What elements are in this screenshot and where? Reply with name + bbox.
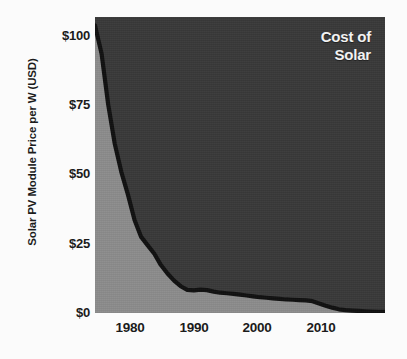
y-tick-label-100: $100: [36, 28, 90, 43]
x-tick-label-2000: 2000: [222, 320, 292, 335]
y-tick-label-75: $75: [36, 97, 90, 112]
chart-title-line-2: Solar: [321, 46, 371, 64]
y-tick-label-0: $0: [36, 305, 90, 320]
chart-title: Cost of Solar: [321, 28, 371, 65]
x-tick-label-1980: 1980: [95, 320, 165, 335]
plot-area: Cost of Solar: [95, 17, 385, 313]
y-axis-tick-labels: $100 $75 $50 $25 $0: [33, 0, 90, 359]
x-tick-label-1990: 1990: [159, 320, 229, 335]
chart-title-line-1: Cost of: [321, 28, 371, 46]
y-tick-label-50: $50: [36, 166, 90, 181]
y-tick-label-25: $25: [36, 236, 90, 251]
chart-figure: Solar PV Module Price per W (USD) $100 $…: [0, 0, 407, 359]
x-tick-label-2010: 2010: [286, 320, 356, 335]
